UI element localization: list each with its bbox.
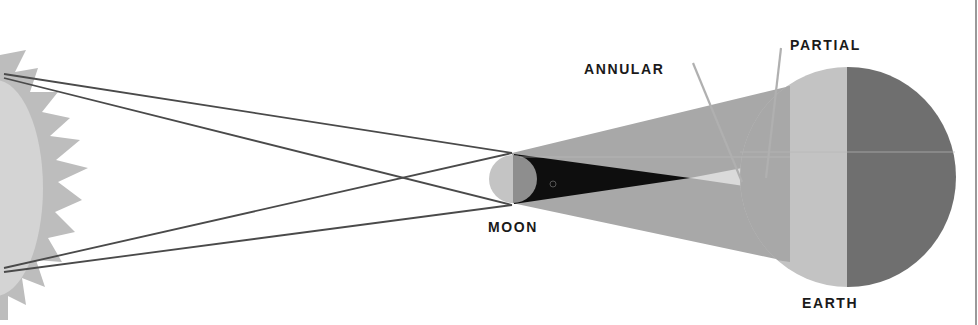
moon-lit-half-icon — [489, 155, 513, 203]
partial-label: PARTIAL — [790, 37, 861, 53]
annular-label: ANNULAR — [584, 61, 664, 77]
ray-bottom-to-moon-bottom — [4, 205, 512, 272]
sun — [0, 50, 88, 320]
frame-border — [975, 0, 977, 325]
sunlight-rays — [4, 74, 512, 272]
moon-label: MOON — [488, 219, 538, 235]
earth-label: EARTH — [802, 295, 858, 311]
earth-dark-half-icon — [847, 60, 967, 300]
